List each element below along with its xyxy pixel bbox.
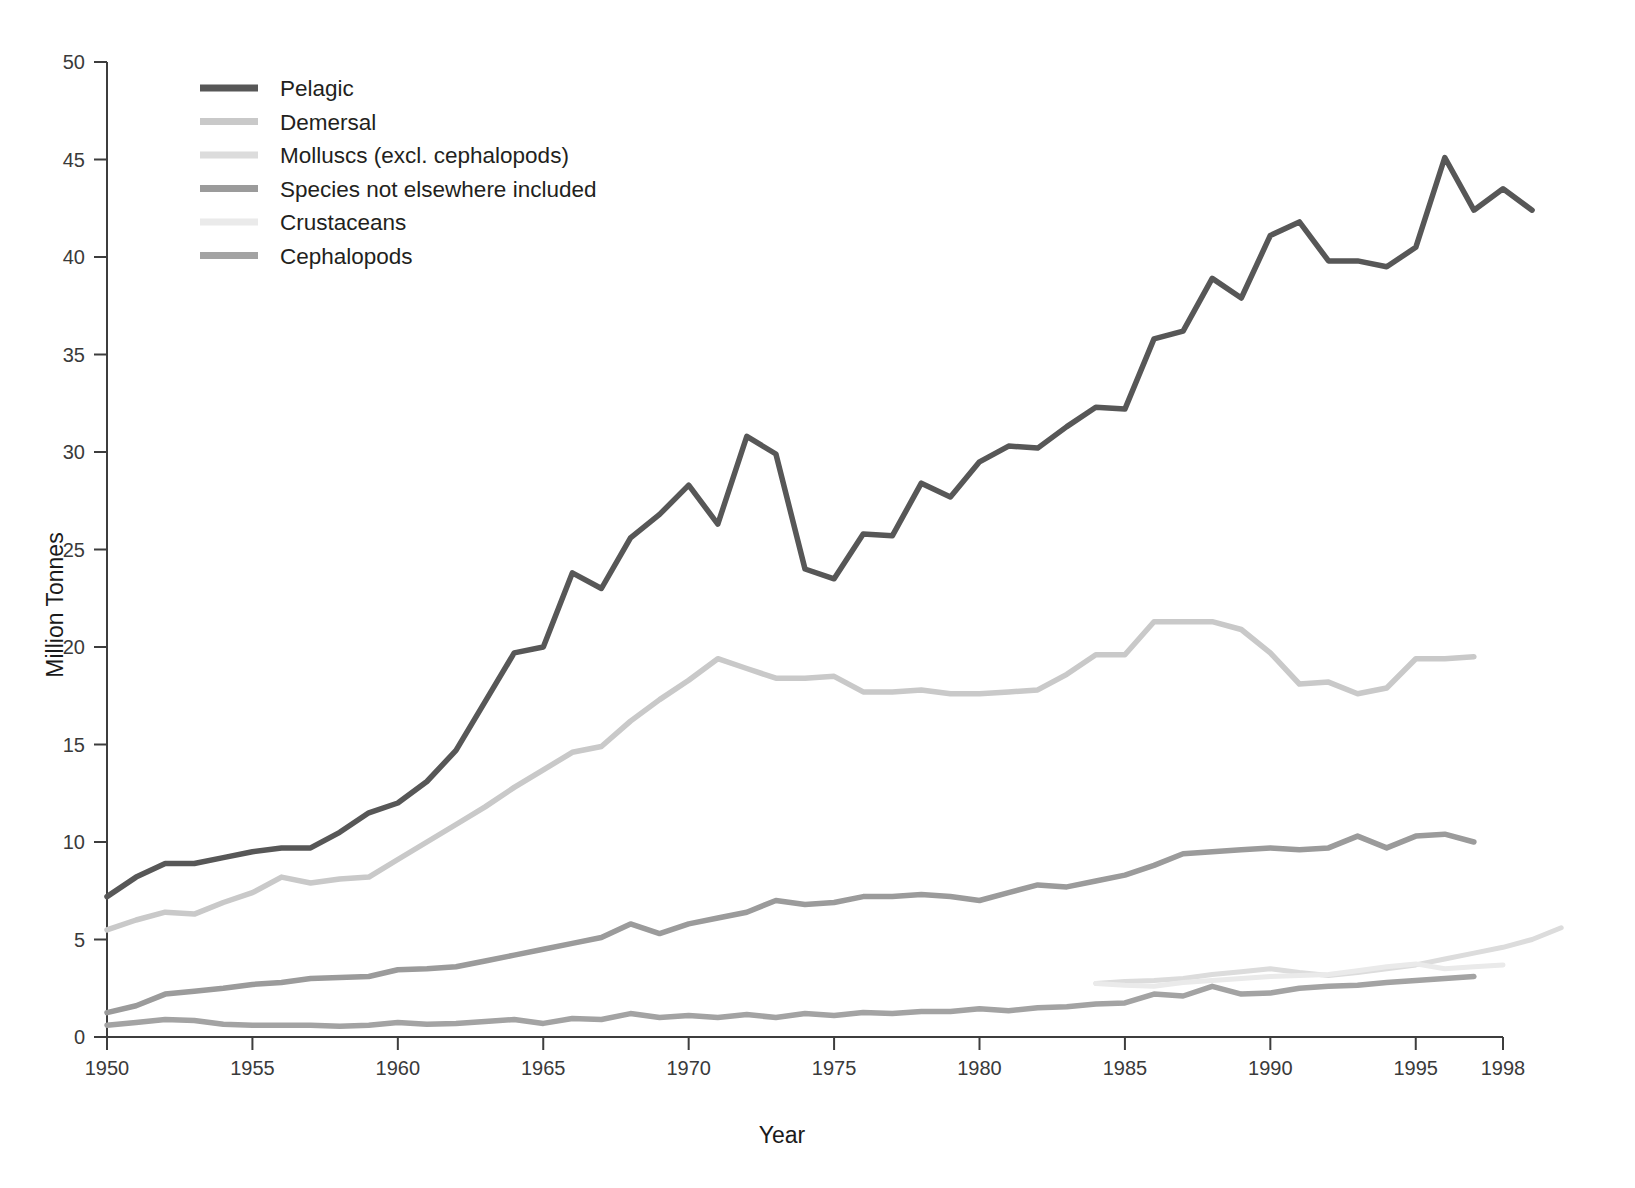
axes-group — [107, 62, 1503, 1037]
x-tick-label: 1975 — [812, 1057, 857, 1079]
x-tick-label: 1990 — [1248, 1057, 1293, 1079]
series-group — [107, 158, 1561, 1027]
series-line-cephalopods — [107, 977, 1474, 1027]
x-tick-label: 1995 — [1394, 1057, 1439, 1079]
y-tick-label: 50 — [63, 51, 85, 73]
y-tick-label: 0 — [74, 1026, 85, 1048]
chart-svg: 05101520253035404550 1950195519601965197… — [0, 0, 1635, 1188]
y-tick-label: 15 — [63, 734, 85, 756]
x-tick-label: 1998 — [1481, 1057, 1526, 1079]
legend-label-cephalopods: Cephalopods — [280, 244, 413, 269]
x-tick-label: 1955 — [230, 1057, 275, 1079]
y-tick-label: 5 — [74, 929, 85, 951]
x-tick-group: 1950195519601965197019751980198519901995… — [85, 1037, 1526, 1079]
legend-label-species-not-elsewhere-included: Species not elsewhere included — [280, 177, 596, 202]
series-line-species-not-elsewhere-included — [107, 834, 1474, 1012]
y-tick-label: 10 — [63, 831, 85, 853]
legend-label-pelagic: Pelagic — [280, 76, 354, 101]
y-tick-label: 45 — [63, 149, 85, 171]
x-tick-label: 1970 — [666, 1057, 711, 1079]
line-chart-figure: 05101520253035404550 1950195519601965197… — [0, 0, 1635, 1188]
x-tick-label: 1965 — [521, 1057, 566, 1079]
series-line-demersal — [107, 622, 1474, 930]
y-tick-label: 35 — [63, 344, 85, 366]
x-tick-label: 1950 — [85, 1057, 130, 1079]
x-tick-label: 1985 — [1103, 1057, 1148, 1079]
y-axis-title: Million Tonnes — [42, 532, 68, 677]
y-tick-group: 05101520253035404550 — [63, 51, 107, 1048]
y-tick-label: 40 — [63, 246, 85, 268]
legend-label-crustaceans: Crustaceans — [280, 210, 406, 235]
chart-page: 05101520253035404550 1950195519601965197… — [0, 0, 1635, 1188]
legend-label-molluscs-excl-cephalopods: Molluscs (excl. cephalopods) — [280, 143, 569, 168]
x-axis-title: Year — [759, 1122, 806, 1148]
chart-legend: PelagicDemersalMolluscs (excl. cephalopo… — [200, 76, 596, 269]
x-tick-label: 1980 — [957, 1057, 1002, 1079]
y-tick-label: 30 — [63, 441, 85, 463]
legend-label-demersal: Demersal — [280, 110, 376, 135]
series-line-crustaceans — [1096, 964, 1503, 986]
x-tick-label: 1960 — [376, 1057, 421, 1079]
